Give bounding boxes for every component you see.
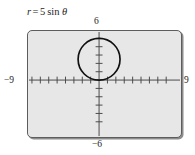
y-axis-min-label: −6 bbox=[92, 140, 102, 150]
equation-caption: r=5sinθ bbox=[27, 6, 67, 19]
graphing-calculator-window bbox=[27, 30, 182, 138]
equation-function: sin bbox=[45, 6, 59, 17]
x-axis-max-label: 9 bbox=[184, 76, 189, 86]
equation-equals: = bbox=[31, 6, 40, 17]
polar-graph bbox=[28, 31, 181, 137]
x-axis-min-label: −9 bbox=[4, 76, 14, 86]
figure-panel: ) r=5sinθ bbox=[0, 0, 195, 155]
equation-variable: θ bbox=[60, 6, 68, 17]
y-axis-max-label: 6 bbox=[94, 17, 99, 27]
